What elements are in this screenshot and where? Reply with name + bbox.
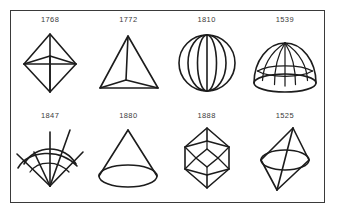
figure-cell-1880: 1880 <box>89 107 167 203</box>
figure-label: 1880 <box>119 111 137 121</box>
figure-label: 1772 <box>119 15 137 25</box>
figure-cell-1772: 1772 <box>89 11 167 107</box>
figure-cell-1768: 1768 <box>11 11 89 107</box>
fan-icon <box>14 122 86 194</box>
crystal-icon <box>171 122 243 194</box>
figure-plate: 1768 1772 <box>0 0 337 215</box>
figure-cell-1847: 1847 <box>11 107 89 203</box>
figure-cell-1539: 1539 <box>246 11 324 107</box>
figure-cell-1810: 1810 <box>168 11 246 107</box>
figure-label: 1768 <box>41 15 59 25</box>
figure-cell-1888: 1888 <box>168 107 246 203</box>
bipyramid-icon <box>14 26 86 98</box>
figure-label: 1888 <box>197 111 215 121</box>
figure-label: 1539 <box>276 15 294 25</box>
figure-label: 1525 <box>276 111 294 121</box>
tetrahedron-icon <box>92 26 164 98</box>
figure-grid: 1768 1772 <box>11 11 324 202</box>
figure-cell-1525: 1525 <box>246 107 324 203</box>
figure-label: 1810 <box>197 15 215 25</box>
dome-icon <box>249 26 321 98</box>
bicone-icon <box>249 122 321 194</box>
sphere-icon <box>171 26 243 98</box>
figure-label: 1847 <box>41 111 59 121</box>
cone-icon <box>92 122 164 194</box>
